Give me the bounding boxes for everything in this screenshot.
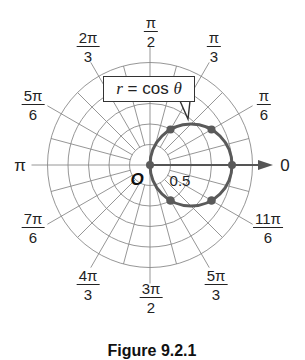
angle-label: 4π3 — [77, 268, 100, 302]
equation-variable: r — [116, 79, 123, 99]
angle-label: π2 — [144, 15, 158, 49]
radial-tick-label: 0.5 — [170, 172, 191, 189]
equation-theta: θ — [173, 79, 181, 99]
angle-label: 11π6 — [253, 211, 283, 245]
angle-label: 5π3 — [205, 268, 228, 302]
angle-label: 5π6 — [22, 88, 45, 122]
equation-operator: = cos — [123, 79, 174, 99]
angle-label: 0 — [280, 157, 289, 174]
angle-label: π6 — [257, 88, 271, 122]
angle-label: 2π3 — [77, 30, 100, 64]
angle-label: 7π6 — [22, 211, 45, 245]
equation-label: r = cos θ — [103, 76, 195, 102]
figure-caption: Figure 9.2.1 — [108, 342, 197, 360]
angle-label: π3 — [207, 30, 221, 64]
angle-label: π — [14, 157, 26, 174]
origin-label: O — [130, 170, 143, 190]
angle-label: 3π2 — [140, 281, 163, 315]
